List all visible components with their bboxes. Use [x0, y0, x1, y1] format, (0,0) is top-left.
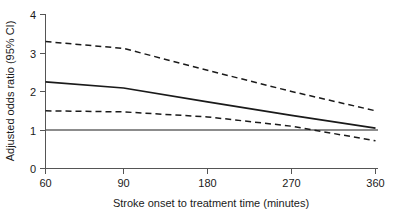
- y-tick-label-0: 0: [30, 163, 36, 175]
- y-tick-label-4: 4: [30, 9, 36, 21]
- y-axis-title: Adjusted odds ratio (95% CI): [4, 21, 16, 162]
- chart-figure: 0 1 2 3 4 60 90 180 270 360 Stroke onset…: [0, 0, 399, 219]
- x-tick-label-270: 270: [282, 177, 300, 189]
- y-tick-label-2: 2: [30, 86, 36, 98]
- x-axis-title: Stroke onset to treatment time (minutes): [113, 197, 309, 209]
- odds-ratio-line-chart: 0 1 2 3 4 60 90 180 270 360 Stroke onset…: [0, 0, 399, 219]
- x-tick-label-90: 90: [117, 177, 129, 189]
- x-tick-label-360: 360: [366, 177, 384, 189]
- x-tick-label-180: 180: [198, 177, 216, 189]
- y-tick-label-1: 1: [30, 125, 36, 137]
- y-tick-label-3: 3: [30, 48, 36, 60]
- x-tick-label-60: 60: [39, 177, 51, 189]
